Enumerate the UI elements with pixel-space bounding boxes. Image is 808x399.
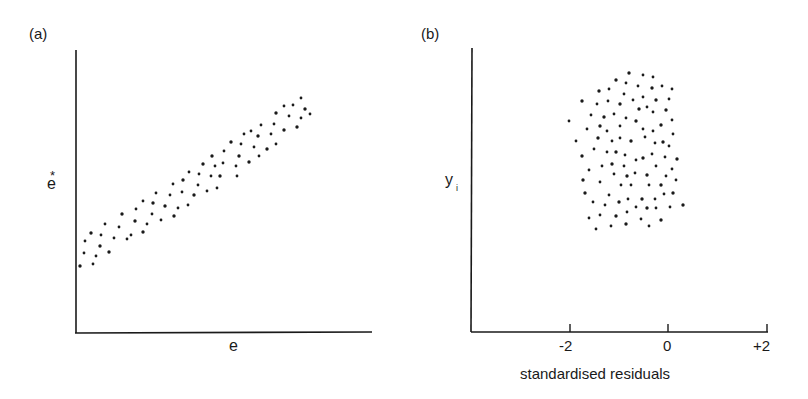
data-point: [599, 214, 602, 217]
data-point: [627, 198, 630, 201]
data-point: [655, 165, 658, 168]
data-point: [659, 218, 662, 221]
data-point: [590, 114, 593, 117]
data-point: [575, 140, 578, 143]
data-point: [250, 130, 253, 133]
data-point: [95, 255, 98, 258]
data-point: [568, 120, 571, 123]
data-point: [617, 200, 620, 203]
data-point: [300, 117, 303, 120]
panel-a-points: [78, 97, 311, 268]
panel-b-points: [568, 71, 685, 230]
data-point: [107, 250, 110, 253]
data-point: [218, 174, 221, 177]
data-point: [78, 264, 81, 267]
data-point: [671, 191, 674, 194]
data-point: [89, 231, 92, 234]
data-point: [640, 197, 643, 200]
data-point: [671, 119, 674, 122]
data-point: [642, 96, 645, 99]
data-point: [282, 128, 285, 131]
data-point: [671, 88, 674, 91]
data-point: [595, 228, 598, 231]
data-point: [201, 162, 204, 165]
data-point: [672, 133, 675, 136]
data-point: [669, 206, 672, 209]
data-point: [635, 159, 638, 162]
data-point: [151, 201, 154, 204]
data-point: [664, 156, 667, 159]
data-point: [177, 207, 180, 210]
data-point: [593, 148, 596, 151]
data-point: [611, 140, 614, 143]
data-point: [172, 214, 175, 217]
data-point: [84, 240, 87, 243]
data-point: [625, 117, 628, 120]
data-point: [181, 191, 184, 194]
data-point: [104, 223, 107, 226]
tick-label-plus-2: +2: [753, 337, 770, 354]
data-point: [606, 130, 609, 133]
data-point: [624, 154, 627, 157]
data-point: [659, 123, 662, 126]
data-point: [637, 85, 640, 88]
data-point: [581, 178, 584, 181]
data-point: [181, 178, 184, 181]
data-point: [624, 222, 627, 225]
panel-b-ylabel-subscript: i: [456, 183, 458, 193]
data-point: [668, 145, 671, 148]
data-point: [601, 165, 604, 168]
data-point: [133, 219, 136, 222]
data-point: [608, 194, 611, 197]
data-point: [607, 100, 610, 103]
data-point: [625, 82, 628, 85]
data-point: [661, 85, 664, 88]
data-point: [652, 76, 655, 79]
data-point: [206, 190, 209, 193]
data-point: [645, 206, 648, 209]
data-point: [580, 99, 583, 102]
data-point: [629, 139, 632, 142]
data-point: [198, 173, 201, 176]
data-point: [645, 173, 648, 176]
data-point: [671, 168, 674, 171]
data-point: [188, 171, 191, 174]
data-point: [283, 105, 286, 108]
data-point: [216, 187, 219, 190]
data-point: [113, 237, 116, 240]
data-point: [598, 124, 601, 127]
data-point: [618, 102, 621, 105]
tick-label-minus-2: -2: [559, 337, 572, 354]
figure-canvas: [0, 0, 808, 399]
data-point: [646, 106, 649, 109]
data-point: [635, 206, 638, 209]
data-point: [626, 211, 629, 214]
data-point: [648, 225, 651, 228]
data-point: [126, 238, 129, 241]
data-point: [586, 128, 589, 131]
data-point: [588, 217, 591, 220]
panel-a-x-axis: [75, 332, 372, 333]
panel-a-xlabel: e: [229, 337, 238, 355]
panel-a-ylabel: e: [47, 175, 56, 193]
data-point: [641, 156, 644, 159]
data-point: [300, 97, 303, 100]
data-point: [681, 203, 684, 206]
data-point: [659, 183, 662, 186]
data-point: [236, 175, 239, 178]
data-point: [100, 234, 103, 237]
data-point: [309, 113, 312, 116]
data-point: [596, 136, 599, 139]
data-point: [135, 208, 138, 211]
data-point: [197, 184, 200, 187]
data-point: [604, 204, 607, 207]
data-point: [634, 119, 637, 122]
data-point: [163, 204, 166, 207]
data-point: [292, 104, 295, 107]
data-point: [654, 142, 657, 145]
data-point: [223, 150, 226, 153]
data-point: [613, 113, 616, 116]
data-point: [275, 143, 278, 146]
data-point: [664, 108, 667, 111]
data-point: [172, 183, 175, 186]
